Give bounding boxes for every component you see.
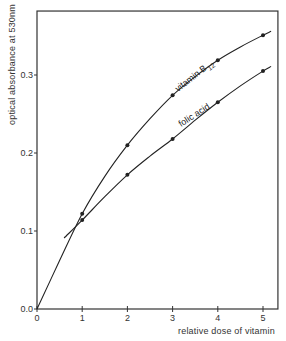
data-point (216, 100, 220, 104)
data-point (125, 143, 129, 147)
y-axis-ticks: 0.00.10.20.3 (20, 70, 37, 314)
data-point (125, 173, 129, 177)
x-tick-label: 3 (170, 313, 175, 323)
curve-folic-acid (64, 66, 271, 238)
plot-frame (37, 11, 278, 309)
x-tick-label: 4 (215, 313, 220, 323)
data-point (80, 212, 84, 216)
x-tick-label: 1 (80, 313, 85, 323)
y-tick-label: 0.3 (20, 70, 33, 80)
curve-vitamin-b12 (37, 31, 271, 309)
data-point (171, 93, 175, 97)
line-chart: 012345 0.00.10.20.3 vitamin B12 folic ac… (0, 0, 286, 341)
y-tick-label: 0.2 (20, 148, 33, 158)
data-curves (37, 31, 271, 309)
y-tick-label: 0.1 (20, 226, 33, 236)
curve-label-vitamin-b12: vitamin B12 (173, 57, 217, 95)
x-tick-label: 0 (34, 313, 39, 323)
y-axis-label: optical absorbance at 530nm (7, 4, 17, 125)
data-point (171, 137, 175, 141)
data-point (261, 33, 265, 37)
data-point (80, 218, 84, 222)
x-axis-label: relative dose of vitamin (178, 326, 275, 336)
plot-border (37, 11, 278, 309)
curve-label-folic-acid: folic acid (177, 101, 212, 128)
x-tick-label: 2 (125, 313, 130, 323)
x-tick-label: 5 (260, 313, 265, 323)
y-tick-label: 0.0 (20, 304, 33, 314)
data-point (261, 69, 265, 73)
data-point (216, 58, 220, 62)
